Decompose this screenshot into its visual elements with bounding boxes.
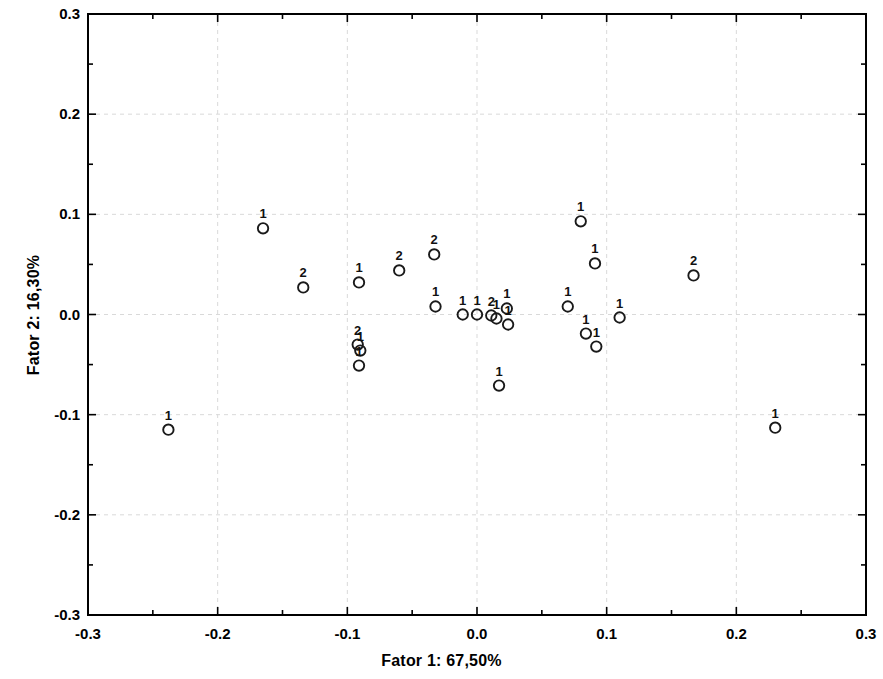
scatter-plot-figure: -0.3-0.2-0.10.00.10.20.3 -0.3-0.2-0.10.0… — [0, 0, 883, 679]
data-point-label: 1 — [456, 293, 470, 308]
data-point-label: 1 — [256, 206, 270, 221]
plot-canvas — [0, 0, 883, 679]
data-point-label: 1 — [429, 284, 443, 299]
x-tick-label: 0.0 — [447, 625, 507, 642]
data-point-marker — [503, 319, 513, 329]
data-point-marker — [163, 424, 173, 434]
data-point-marker — [258, 223, 268, 233]
data-point-marker — [688, 270, 698, 280]
data-point-label: 1 — [613, 296, 627, 311]
y-tick-label: -0.2 — [20, 506, 80, 523]
data-point-marker — [770, 422, 780, 432]
x-tick-label: -0.1 — [317, 625, 377, 642]
x-tick-label: -0.2 — [188, 625, 248, 642]
data-point-label: 2 — [392, 248, 406, 263]
data-point-marker — [430, 301, 440, 311]
data-point-marker — [563, 301, 573, 311]
data-point-marker — [298, 282, 308, 292]
data-point-label: 1 — [492, 364, 506, 379]
data-point-marker — [429, 249, 439, 259]
y-tick-label: 0.3 — [20, 5, 80, 22]
x-axis-title: Fator 1: 67,50% — [0, 652, 883, 670]
x-tick-label: 0.1 — [577, 625, 637, 642]
gridlines — [88, 14, 866, 615]
data-point-label: 1 — [768, 406, 782, 421]
y-axis-title: Fator 2: 16,30% — [25, 185, 43, 445]
data-point-label: 1 — [589, 325, 603, 340]
y-tick-label: -0.3 — [20, 606, 80, 623]
data-point-marker — [354, 360, 364, 370]
data-point-label: 1 — [470, 293, 484, 308]
data-point-marker — [576, 216, 586, 226]
y-tick-label: 0.2 — [20, 105, 80, 122]
data-point-label: 1 — [353, 329, 367, 344]
data-point-marker — [591, 341, 601, 351]
data-point-marker — [614, 312, 624, 322]
data-point-label: 1 — [574, 199, 588, 214]
data-point-marker — [494, 380, 504, 390]
data-point-label: 2 — [296, 265, 310, 280]
data-point-label: 1 — [352, 260, 366, 275]
x-tick-label: -0.3 — [58, 625, 118, 642]
data-point-marker — [394, 265, 404, 275]
data-point-label: 1 — [501, 303, 515, 318]
x-tick-label: 0.2 — [706, 625, 766, 642]
data-point-label: 1 — [161, 408, 175, 423]
data-point-marker — [590, 258, 600, 268]
x-tick-label: 0.3 — [836, 625, 883, 642]
data-point-marker — [354, 277, 364, 287]
data-point-label: 2 — [427, 232, 441, 247]
data-point-label: 1 — [561, 284, 575, 299]
data-point-label: 1 — [588, 241, 602, 256]
data-point-label: 1 — [500, 286, 514, 301]
data-point-label: 2 — [687, 253, 701, 268]
data-markers — [163, 216, 780, 435]
data-point-label: 1 — [352, 344, 366, 359]
